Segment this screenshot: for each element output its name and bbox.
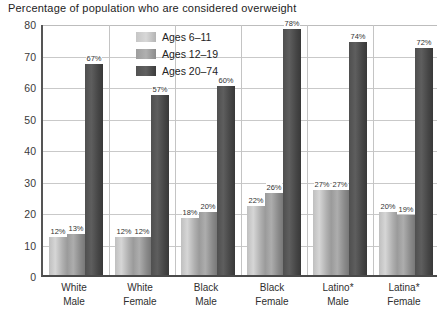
x-tick-label-line1: Latino* [322, 282, 353, 293]
x-tick-label-line1: Black [260, 282, 284, 293]
bar[interactable]: 78% [283, 23, 301, 275]
bar-fill [349, 42, 367, 275]
bar-value-label: 78% [284, 19, 300, 28]
legend-label: Ages 6–11 [162, 31, 211, 43]
bar-value-label: 12% [50, 227, 66, 236]
bar-fill [265, 193, 283, 275]
x-tick-label-line1: Black [194, 282, 218, 293]
x-tick-label: BlackFemale [239, 281, 305, 309]
bars-wrap: 20%19%72% [379, 25, 433, 275]
bar[interactable]: 12% [115, 23, 133, 275]
x-tick-label-line2: Male [173, 295, 239, 309]
y-tick-label-0: 0 [30, 271, 36, 283]
bar-value-label: 13% [68, 224, 84, 233]
bar[interactable]: 74% [349, 23, 367, 275]
bar-fill [151, 95, 169, 275]
bar-fill [283, 29, 301, 275]
x-tick-label: Latina*Female [371, 281, 437, 309]
bar-fill [67, 234, 85, 275]
y-tick-label-20: 20 [24, 208, 36, 220]
bar[interactable]: 27% [331, 23, 349, 275]
bar[interactable]: 12% [49, 23, 67, 275]
bar-value-label: 67% [86, 54, 102, 63]
bar[interactable]: 72% [415, 23, 433, 275]
bar-fill [415, 48, 433, 275]
legend-label: Ages 20–74 [162, 65, 218, 77]
bars-wrap: 12%13%67% [49, 25, 103, 275]
bar-value-label: 20% [200, 202, 216, 211]
y-tick-label-50: 50 [24, 114, 36, 126]
legend-item[interactable]: Ages 12–19 [136, 47, 256, 61]
x-tick-label-line1: Latina* [388, 282, 419, 293]
bar[interactable]: 20% [379, 23, 397, 275]
y-tick-label-30: 30 [24, 177, 36, 189]
legend-item[interactable]: Ages 6–11 [136, 30, 256, 44]
bar-fill [379, 212, 397, 275]
bar-value-label: 20% [380, 202, 396, 211]
chart-legend: Ages 6–11Ages 12–19Ages 20–74 [136, 30, 256, 81]
x-tick-label-line2: Male [305, 295, 371, 309]
x-axis: WhiteMaleWhiteFemaleBlackMaleBlackFemale… [41, 281, 437, 321]
bar-fill [217, 86, 235, 275]
legend-item[interactable]: Ages 20–74 [136, 64, 256, 78]
bar[interactable]: 19% [397, 23, 415, 275]
bar-value-label: 72% [416, 38, 432, 47]
x-tick-label-line2: Female [239, 295, 305, 309]
bar-fill [85, 64, 103, 275]
x-tick-label: Latino*Male [305, 281, 371, 309]
bar-fill [115, 237, 133, 275]
bar-fill [199, 212, 217, 275]
x-tick-label-line1: White [127, 282, 153, 293]
legend-swatch-icon [136, 66, 156, 76]
y-tick-label-60: 60 [24, 82, 36, 94]
y-axis: 01020304050607080 [0, 25, 36, 277]
y-tick-label-70: 70 [24, 51, 36, 63]
chart-title: Percentage of population who are conside… [8, 2, 296, 14]
x-tick-label-line2: Male [41, 295, 107, 309]
bar-value-label: 74% [350, 32, 366, 41]
bar-chart: Percentage of population who are conside… [0, 0, 444, 321]
x-tick-label: WhiteMale [41, 281, 107, 309]
bar-group: 12%13%67% [43, 25, 109, 275]
legend-label: Ages 12–19 [162, 48, 218, 60]
x-tick-label: BlackMale [173, 281, 239, 309]
bar-value-label: 57% [152, 85, 168, 94]
bar-value-label: 26% [266, 183, 282, 192]
bar-group: 27%27%74% [307, 25, 373, 275]
y-tick-label-40: 40 [24, 145, 36, 157]
bar-value-label: 27% [314, 180, 330, 189]
bars-wrap: 27%27%74% [313, 25, 367, 275]
bar-fill [49, 237, 67, 275]
y-tick-label-80: 80 [24, 19, 36, 31]
y-tick-label-10: 10 [24, 240, 36, 252]
bar-value-label: 22% [248, 196, 264, 205]
x-tick-label-line2: Female [371, 295, 437, 309]
bar-value-label: 27% [332, 180, 348, 189]
bar[interactable]: 13% [67, 23, 85, 275]
bar-fill [331, 190, 349, 275]
x-tick-label: WhiteFemale [107, 281, 173, 309]
bar-fill [247, 206, 265, 275]
bar[interactable]: 27% [313, 23, 331, 275]
bar-fill [397, 215, 415, 275]
bar[interactable]: 67% [85, 23, 103, 275]
bar-value-label: 19% [398, 205, 414, 214]
bar-fill [181, 218, 199, 275]
bar-value-label: 12% [134, 227, 150, 236]
x-tick-label-line1: White [61, 282, 87, 293]
bar-value-label: 12% [116, 227, 132, 236]
bar-value-label: 18% [182, 208, 198, 217]
legend-swatch-icon [136, 49, 156, 59]
bar-fill [313, 190, 331, 275]
legend-swatch-icon [136, 32, 156, 42]
bar-fill [133, 237, 151, 275]
bar[interactable]: 26% [265, 23, 283, 275]
bar-group: 20%19%72% [373, 25, 439, 275]
x-tick-label-line2: Female [107, 295, 173, 309]
